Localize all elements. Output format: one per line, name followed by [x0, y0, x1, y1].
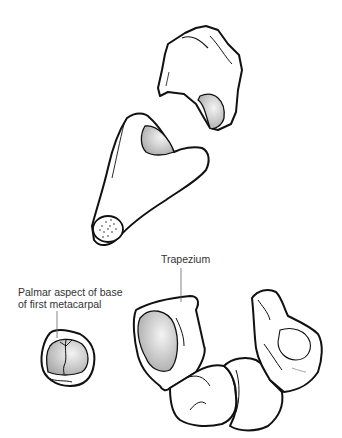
palmar-label-line1: Palmar aspect of base [18, 286, 122, 298]
anatomy-figure: Trapezium Palmar aspect of base of first… [0, 0, 342, 438]
trapezium-label: Trapezium [161, 253, 210, 265]
trapezium-upper-view [158, 26, 242, 130]
bone-illustration [0, 0, 342, 438]
first-metacarpal [92, 114, 209, 246]
carpal-group [134, 290, 322, 431]
metacarpal-base-palmar [41, 330, 94, 386]
palmar-label-line2: of first metacarpal [18, 298, 101, 310]
